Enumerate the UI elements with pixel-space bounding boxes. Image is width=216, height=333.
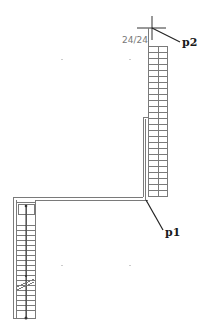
- p1-label: p1: [165, 226, 180, 239]
- p1-leader-line: [146, 200, 163, 230]
- lower-flight: [16, 200, 35, 320]
- landing-walls: [13, 117, 148, 318]
- walkline-end-dot: [25, 317, 28, 320]
- walkline-mid-dot: [25, 275, 27, 277]
- background-specks: [61, 59, 131, 266]
- upper-flight: [148, 28, 167, 196]
- p2-leader-line: [152, 28, 180, 42]
- p2-label: p2: [182, 36, 197, 49]
- staircase-diagram: 24/24 p2 p1: [0, 0, 216, 333]
- walkline-start-dot: [25, 205, 28, 208]
- step-ratio-label: 24/24: [122, 35, 148, 45]
